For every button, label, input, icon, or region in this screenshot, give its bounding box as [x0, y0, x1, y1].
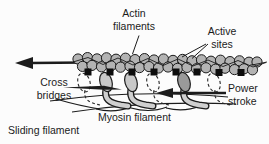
active-site-marker [85, 69, 92, 76]
active-site-marker [216, 69, 223, 76]
active-site-marker [238, 69, 245, 76]
active-site-marker [129, 69, 136, 76]
cross-bridges-label: Cross bridges [32, 76, 76, 101]
active-site-marker [151, 69, 158, 76]
muscle-contraction-diagram: Actin filaments Active sites Cross bridg… [0, 0, 269, 144]
myosin-head-ghost [206, 72, 230, 105]
power-stroke-label: Power stroke [228, 82, 268, 107]
active-sites-label: Active sites [196, 25, 248, 50]
myosin-head-ghost [145, 72, 169, 105]
myosin-head [123, 71, 153, 106]
myosin-filament-label: Myosin filament [98, 111, 171, 124]
active-site-marker [173, 69, 180, 76]
actin-filaments-label: Actin filaments [106, 7, 162, 32]
sliding-filament-label: Sliding filament [8, 124, 79, 137]
myosin-head [176, 71, 206, 106]
actin-label-leader-line [133, 36, 140, 55]
active-site-marker [107, 69, 114, 76]
active-site-marker [194, 69, 201, 76]
